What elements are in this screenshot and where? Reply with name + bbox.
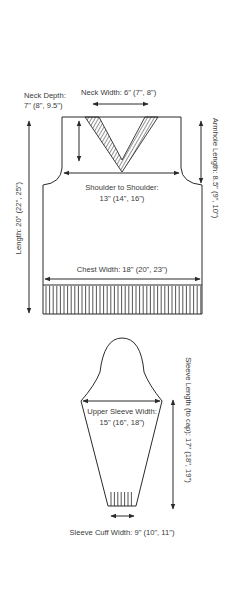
shoulder-label: Shoulder to Shoulder: — [85, 183, 158, 192]
neck-depth-label: Neck Depth: — [24, 91, 66, 100]
body-ribbing — [46, 286, 201, 314]
neck-depth-value: 7" (8", 9.5") — [24, 101, 63, 110]
sweater-schematic: Neck Depth: 7" (8", 9.5") Neck Width: 6"… — [0, 0, 228, 612]
sleeve-piece: Upper Sleeve Width: 15" (16", 18") Sleev… — [70, 338, 193, 537]
body-outline — [43, 117, 202, 314]
length-label: Length: 20" (22", 25") — [14, 181, 23, 254]
v-neck-band — [85, 117, 158, 172]
cuff-ribbing — [111, 492, 131, 506]
upper-sleeve-width-value: 15" (16", 18") — [100, 418, 145, 427]
cuff-width-label: Sleeve Cuff Width: 9" (10", 11") — [70, 528, 175, 537]
upper-sleeve-width-label: Upper Sleeve Width: — [87, 407, 157, 416]
neck-width-label: Neck Width: 6" (7", 8") — [81, 88, 157, 97]
shoulder-value: 13" (14", 16") — [100, 194, 145, 203]
sleeve-length-label: Sleeve Length (to cap): 17" (18", 19") — [184, 357, 193, 483]
body-piece: Neck Depth: 7" (8", 9.5") Neck Width: 6"… — [14, 88, 220, 314]
armhole-length-label: Armhole Length: 8.5" (9", 10") — [211, 118, 220, 219]
chest-width-label: Chest Width: 18" (20", 23") — [77, 265, 168, 274]
